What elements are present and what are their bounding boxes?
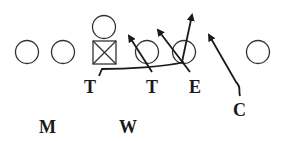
offense-player-circle <box>247 41 270 64</box>
defense-label-c: C <box>233 100 246 120</box>
quarterback-circle <box>93 16 116 39</box>
corner-route-arrow <box>209 35 240 96</box>
defense-label-t: T <box>146 77 158 97</box>
defense-label-w: W <box>119 117 137 137</box>
defense-label-m: M <box>39 117 56 137</box>
play-diagram: T T E C M W <box>0 0 281 141</box>
deep-route-arrow <box>182 15 192 62</box>
offense-player-circle <box>16 41 39 64</box>
defense-label-t: T <box>84 77 96 97</box>
offense-player-circle <box>52 41 75 64</box>
defense-label-e: E <box>189 77 201 97</box>
tackle-route-arrow <box>129 36 152 72</box>
center-square-x-icon <box>93 41 116 64</box>
